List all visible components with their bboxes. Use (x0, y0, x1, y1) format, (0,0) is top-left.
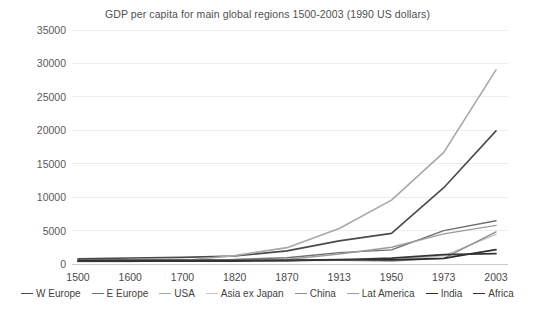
legend-label: E Europe (107, 288, 149, 299)
legend-label: India (441, 288, 463, 299)
x-axis-tick-label: 1870 (275, 271, 299, 283)
series-lines (78, 70, 496, 261)
legend-swatch-icon (159, 293, 171, 294)
legend-swatch-icon (426, 293, 438, 294)
series-line-w-europe (78, 131, 496, 259)
legend-swatch-icon (295, 293, 307, 294)
y-axis-tick-label: 25000 (37, 91, 66, 103)
x-axis-tick-label: 1700 (171, 271, 195, 283)
y-axis-tick-label: 20000 (37, 124, 66, 136)
y-axis-tick-labels: 05000100001500020000250003000035000 (37, 24, 66, 270)
y-axis-tick-label: 0 (60, 258, 66, 270)
x-axis-tick-label: 1973 (432, 271, 456, 283)
legend-swatch-icon (473, 293, 485, 294)
legend-item-usa[interactable]: USA (159, 288, 195, 299)
plot-area: 05000100001500020000250003000035000 1500… (0, 0, 535, 317)
legend-item-china[interactable]: China (295, 288, 336, 299)
legend-swatch-icon (21, 293, 33, 294)
x-axis-tick-label: 1820 (223, 271, 247, 283)
legend-item-lat-america[interactable]: Lat America (347, 288, 415, 299)
series-line-usa (78, 70, 496, 261)
legend-label: Africa (488, 288, 514, 299)
y-axis-tick-label: 30000 (37, 57, 66, 69)
x-axis-tick-label: 1950 (380, 271, 404, 283)
y-axis-tick-label: 5000 (43, 225, 67, 237)
x-axis-tick-label: 2003 (484, 271, 508, 283)
legend-label: Lat America (362, 288, 415, 299)
legend-item-w-europe[interactable]: W Europe (21, 288, 80, 299)
y-axis-tick-label: 10000 (37, 191, 66, 203)
legend-swatch-icon (347, 293, 359, 294)
x-axis-tick-label: 1913 (328, 271, 352, 283)
gdp-per-capita-line-chart: GDP per capita for main global regions 1… (0, 0, 535, 317)
chart-legend: W EuropeE EuropeUSAAsia ex JapanChinaLat… (0, 288, 535, 299)
y-axis-tick-label: 35000 (37, 24, 66, 36)
legend-item-e-europe[interactable]: E Europe (92, 288, 149, 299)
legend-swatch-icon (206, 293, 218, 294)
legend-label: Asia ex Japan (221, 288, 284, 299)
x-axis-tick-label: 1500 (66, 271, 90, 283)
y-axis-tick-label: 15000 (37, 158, 66, 170)
legend-label: China (310, 288, 336, 299)
x-axis-tick-labels: 150016001700182018701913195019732003 (66, 271, 508, 283)
legend-swatch-icon (92, 293, 104, 294)
legend-item-asia-ex-japan[interactable]: Asia ex Japan (206, 288, 284, 299)
gridlines (72, 30, 508, 264)
legend-item-africa[interactable]: Africa (473, 288, 514, 299)
legend-item-india[interactable]: India (426, 288, 463, 299)
x-axis-tick-label: 1600 (119, 271, 143, 283)
legend-label: W Europe (36, 288, 80, 299)
legend-label: USA (174, 288, 195, 299)
